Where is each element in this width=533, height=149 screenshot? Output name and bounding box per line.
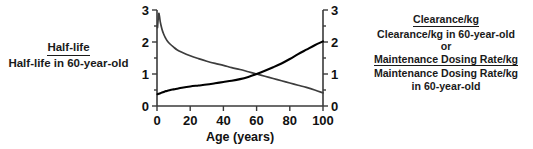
right-ratio-numerator-1: Clearance/kg — [413, 13, 479, 27]
x-axis-tick-labels: 020406080100 — [153, 113, 333, 128]
chart-svg: 0123 0123 020406080100 Age (years) — [130, 0, 345, 149]
y-tick-label-left: 2 — [142, 35, 149, 50]
left-ratio-denominator: Half-life in 60-year-old — [2, 57, 135, 71]
x-tick-label: 40 — [216, 113, 230, 128]
y-tick-label-right: 1 — [331, 67, 338, 82]
left-ratio-label: Half-life Half-life in 60-year-old — [2, 41, 135, 70]
left-ratio-numerator: Half-life — [47, 41, 89, 56]
x-axis-title: Age (years) — [206, 130, 274, 144]
series-clearance-curve — [158, 41, 324, 94]
x-tick-label: 0 — [153, 113, 160, 128]
right-ratio-numerator-2: Maintenance Dosing Rate/kg — [374, 53, 518, 67]
chart: 0123 0123 020406080100 Age (years) — [130, 0, 345, 149]
y-tick-label-left: 1 — [142, 67, 149, 82]
right-ratio-denominator-1: Clearance/kg in 60-year-old — [360, 28, 532, 41]
y-tick-label-right: 2 — [331, 35, 338, 50]
right-ratio-joiner: or — [360, 40, 532, 53]
y-tick-label-left: 0 — [142, 99, 149, 114]
figure-root: Half-life Half-life in 60-year-old Clear… — [0, 0, 533, 149]
y-axis-left-tick-labels: 0123 — [142, 3, 149, 114]
right-ratio-label: Clearance/kg Clearance/kg in 60-year-old… — [360, 13, 532, 92]
x-tick-label: 80 — [283, 113, 297, 128]
right-ratio-denominator-2-line1: Maintenance Dosing Rate/kg — [360, 67, 532, 80]
x-tick-label: 100 — [312, 113, 334, 128]
y-tick-label-left: 3 — [142, 3, 149, 18]
y-tick-label-right: 3 — [331, 3, 338, 18]
x-tick-label: 20 — [183, 113, 197, 128]
x-tick-label: 60 — [249, 113, 263, 128]
right-ratio-denominator-2-line2: in 60-year-old — [360, 80, 532, 93]
y-axis-right-tick-labels: 0123 — [331, 3, 338, 114]
y-tick-label-right: 0 — [331, 99, 338, 114]
